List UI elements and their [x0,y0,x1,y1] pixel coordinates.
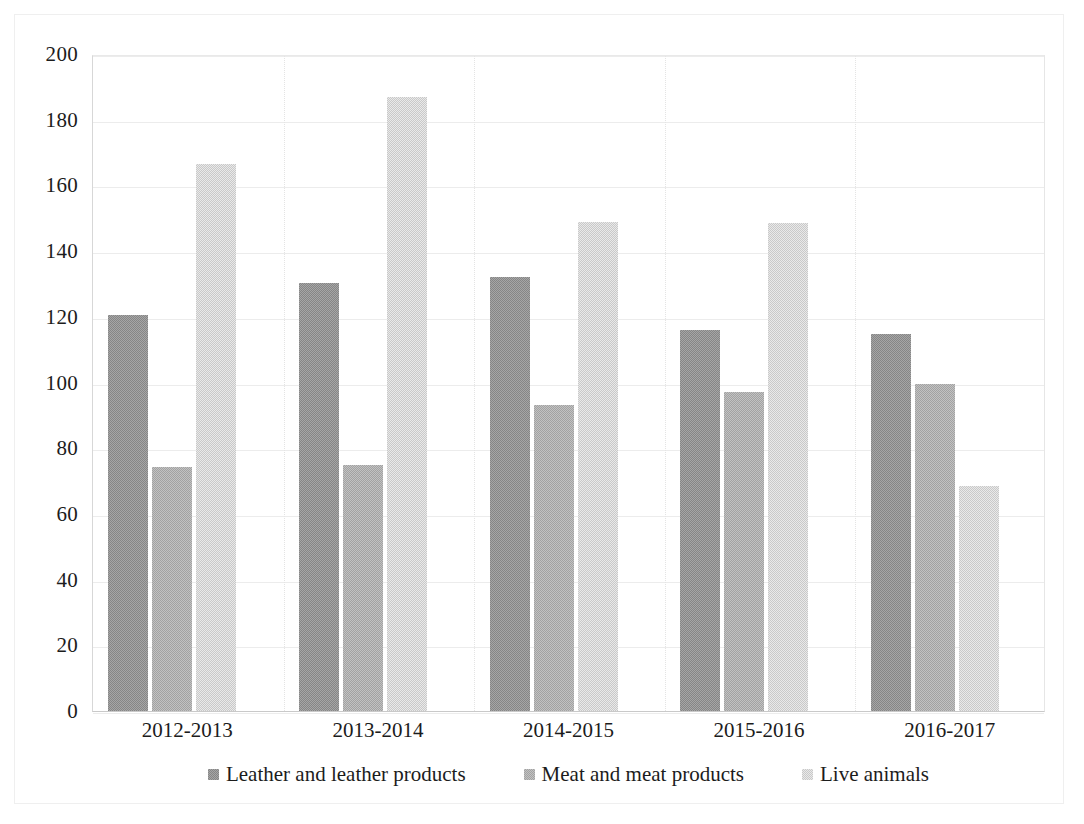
legend-swatch-icon [802,769,813,780]
y-axis-tick-label: 140 [18,241,78,262]
y-axis-tick-label: 0 [18,701,78,722]
legend-swatch-icon [524,769,535,780]
bar [196,164,236,711]
legend-item[interactable]: Meat and meat products [524,762,744,786]
y-axis-tick-label: 100 [18,373,78,394]
x-axis-tick-label: 2016-2017 [854,718,1045,742]
y-axis-tick-label: 200 [18,44,78,65]
legend-item[interactable]: Leather and leather products [208,762,466,786]
y-axis-tick-label: 120 [18,307,78,328]
bar [871,334,911,711]
bar [490,277,530,711]
plot-area [92,55,1045,712]
bar [578,222,618,711]
chart-legend: Leather and leather productsMeat and mea… [92,762,1045,786]
x-axis-tick-label: 2013-2014 [283,718,474,742]
bar [680,330,720,711]
x-axis-tick-label: 2014-2015 [473,718,664,742]
legend-item[interactable]: Live animals [802,762,929,786]
y-axis-tick-label: 160 [18,175,78,196]
y-axis-tick-label: 80 [18,438,78,459]
bar [108,315,148,711]
legend-label: Live animals [820,762,929,786]
bar [387,97,427,711]
bar [534,405,574,711]
y-axis-tick-label: 60 [18,504,78,525]
bar [724,392,764,711]
bar [152,467,192,711]
bars-layer [93,56,1044,711]
bar [343,465,383,711]
y-axis-tick-label: 180 [18,110,78,131]
bar [299,283,339,711]
y-axis-tick-label: 20 [18,635,78,656]
bar [768,223,808,711]
y-axis-tick-label: 40 [18,570,78,591]
x-axis-tick-label: 2012-2013 [92,718,283,742]
legend-label: Meat and meat products [542,762,744,786]
bar-chart-figure: 020406080100120140160180200 2012-2013201… [0,0,1084,824]
legend-swatch-icon [208,769,219,780]
legend-label: Leather and leather products [226,762,466,786]
bar [959,486,999,711]
gridline-horizontal [93,713,1044,714]
x-axis-tick-label: 2015-2016 [664,718,855,742]
bar [915,384,955,711]
